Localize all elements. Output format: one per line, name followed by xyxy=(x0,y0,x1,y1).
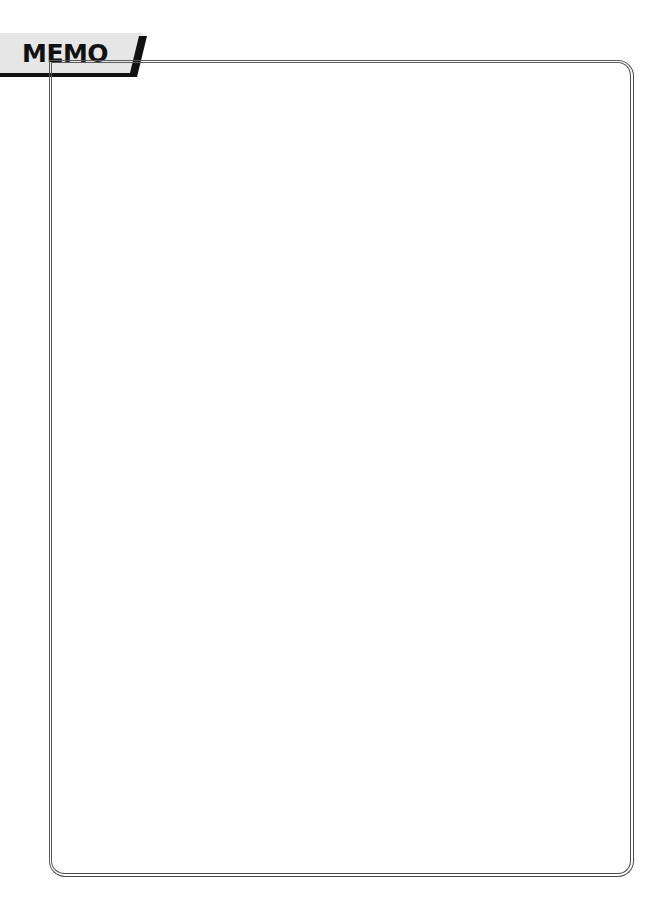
memo-writing-area[interactable] xyxy=(49,60,634,877)
memo-content[interactable] xyxy=(52,63,630,873)
